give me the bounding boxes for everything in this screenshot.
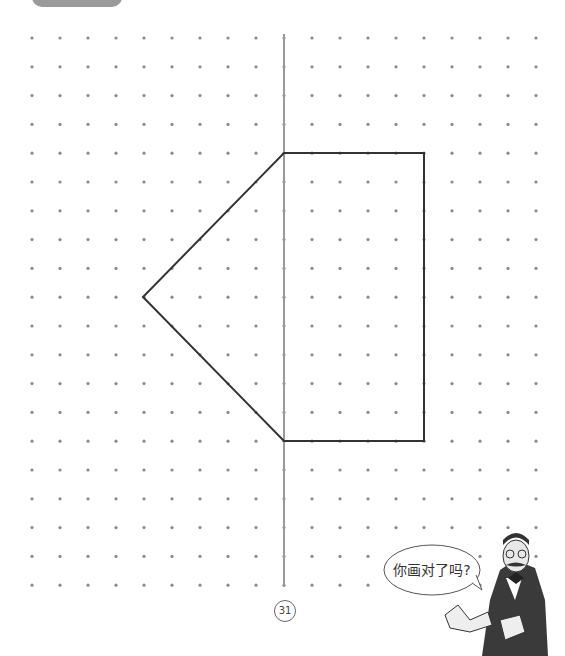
grid-dot bbox=[338, 324, 341, 327]
grid-dot bbox=[478, 382, 481, 385]
grid-dot bbox=[366, 526, 369, 529]
grid-dot bbox=[254, 238, 257, 241]
grid-dot bbox=[478, 324, 481, 327]
grid-dot bbox=[338, 353, 341, 356]
grid-dot bbox=[366, 382, 369, 385]
grid-dot bbox=[30, 440, 33, 443]
grid-dot bbox=[86, 180, 89, 183]
grid-dot bbox=[170, 468, 173, 471]
grid-dot bbox=[170, 584, 173, 587]
grid-dot bbox=[198, 468, 201, 471]
grid-dot bbox=[226, 468, 229, 471]
grid-dot bbox=[366, 65, 369, 68]
grid-dot bbox=[142, 209, 145, 212]
grid-dot bbox=[338, 526, 341, 529]
grid-dot bbox=[310, 526, 313, 529]
grid-dot bbox=[534, 555, 537, 558]
grid-dot bbox=[86, 440, 89, 443]
grid-dot bbox=[506, 94, 509, 97]
grid-dot bbox=[58, 497, 61, 500]
grid-dot bbox=[506, 123, 509, 126]
grid-dot bbox=[170, 180, 173, 183]
grid-dot bbox=[534, 180, 537, 183]
grid-dot bbox=[226, 94, 229, 97]
grid-dot bbox=[310, 238, 313, 241]
grid-dot bbox=[506, 180, 509, 183]
grid-dot bbox=[86, 324, 89, 327]
grid-dot bbox=[58, 296, 61, 299]
grid-dot bbox=[478, 36, 481, 39]
grid-dot bbox=[254, 152, 257, 155]
grid-dot bbox=[30, 123, 33, 126]
grid-dot bbox=[338, 555, 341, 558]
grid-dot bbox=[114, 468, 117, 471]
grid-dot bbox=[450, 382, 453, 385]
grid-dot bbox=[506, 468, 509, 471]
grid-dot bbox=[254, 123, 257, 126]
grid-dot bbox=[30, 209, 33, 212]
grid-dot bbox=[30, 526, 33, 529]
grid-dot bbox=[338, 36, 341, 39]
grid-dot bbox=[30, 267, 33, 270]
grid-dot bbox=[198, 411, 201, 414]
grid-dot bbox=[338, 65, 341, 68]
grid-dot bbox=[450, 238, 453, 241]
grid-dot bbox=[394, 238, 397, 241]
grid-dot bbox=[114, 555, 117, 558]
grid-dot bbox=[478, 180, 481, 183]
grid-dot bbox=[58, 324, 61, 327]
grid-dot bbox=[310, 180, 313, 183]
grid-dot bbox=[338, 180, 341, 183]
grid-dot bbox=[86, 123, 89, 126]
grid-dot bbox=[86, 65, 89, 68]
grid-dot bbox=[422, 36, 425, 39]
grid-dot bbox=[198, 180, 201, 183]
grid-dot bbox=[142, 123, 145, 126]
grid-dot bbox=[534, 468, 537, 471]
grid-dot bbox=[30, 238, 33, 241]
grid-dot bbox=[58, 94, 61, 97]
grid-dot bbox=[142, 36, 145, 39]
grid-dot bbox=[114, 267, 117, 270]
grid-dot bbox=[366, 209, 369, 212]
grid-dot bbox=[534, 65, 537, 68]
grid-dot bbox=[198, 209, 201, 212]
grid-dot bbox=[170, 65, 173, 68]
grid-dot bbox=[338, 411, 341, 414]
grid-dot bbox=[478, 267, 481, 270]
grid-dot bbox=[534, 353, 537, 356]
grid-dot bbox=[86, 267, 89, 270]
grid-dot bbox=[310, 65, 313, 68]
grid-dot bbox=[310, 296, 313, 299]
grid-dot bbox=[450, 267, 453, 270]
grid-dot bbox=[142, 152, 145, 155]
grid-dot bbox=[366, 123, 369, 126]
grid-dot bbox=[366, 584, 369, 587]
grid-dot bbox=[254, 209, 257, 212]
grid-dot bbox=[506, 238, 509, 241]
grid-dot bbox=[478, 440, 481, 443]
grid-dot bbox=[170, 440, 173, 443]
grid-dot bbox=[226, 584, 229, 587]
grid-dot bbox=[366, 555, 369, 558]
grid-dot bbox=[170, 497, 173, 500]
grid-dot bbox=[170, 411, 173, 414]
grid-dot bbox=[422, 468, 425, 471]
grid-dot bbox=[422, 123, 425, 126]
grid-dot bbox=[30, 296, 33, 299]
grid-dot bbox=[226, 296, 229, 299]
grid-dot bbox=[422, 94, 425, 97]
grid-dot bbox=[58, 555, 61, 558]
grid-dot bbox=[114, 440, 117, 443]
grid-dot bbox=[170, 152, 173, 155]
grid-dot bbox=[394, 526, 397, 529]
grid-dot bbox=[394, 180, 397, 183]
grid-dot bbox=[338, 382, 341, 385]
grid-dot bbox=[366, 353, 369, 356]
grid-dot bbox=[338, 497, 341, 500]
grid-dot bbox=[86, 94, 89, 97]
grid-dot bbox=[450, 440, 453, 443]
grid-dot bbox=[366, 267, 369, 270]
grid-dot bbox=[310, 468, 313, 471]
grid-dot bbox=[394, 36, 397, 39]
